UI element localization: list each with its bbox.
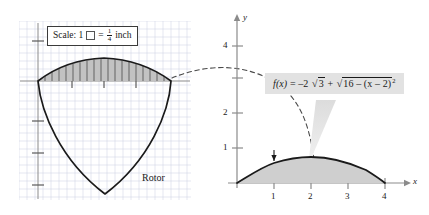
x-tick-label-2: 2 — [308, 191, 313, 201]
x-tick-label-1: 1 — [271, 191, 276, 201]
scale-unit: inch — [115, 30, 131, 41]
fraction-denominator: 4 — [107, 36, 113, 43]
curve-pointer-arrow — [271, 150, 276, 161]
rotor-area-figure: Scale: 1 = 1 4 inch Rotor f(x) = –2 √3 +… — [0, 0, 429, 215]
rotor-shape-label: Rotor — [142, 172, 165, 183]
callout-pointer — [308, 100, 336, 166]
equation-callout: f(x) = –2 √3 + √16 – (x – 2)2 — [265, 73, 404, 94]
radicand-2: 16 – (x – 2) — [342, 77, 392, 89]
equation-equals: = — [290, 78, 296, 89]
y-axis-label: y — [243, 12, 247, 22]
y-axis-arrowhead — [234, 14, 240, 21]
x-tick-label-3: 3 — [345, 191, 350, 201]
y-tick-label-2: 2 — [223, 107, 228, 117]
scale-equals: = — [98, 30, 103, 41]
equation-coefficient: –2 — [298, 78, 308, 89]
equation-lhs: f(x) — [273, 78, 287, 89]
radicand-1: 3 — [318, 77, 325, 89]
sqrt-icon-1: √3 — [311, 77, 325, 89]
y-tick-label-1: 1 — [223, 142, 228, 152]
x-axis-arrowhead — [404, 180, 411, 186]
scale-prefix: Scale: 1 — [53, 30, 83, 41]
equation-plus: + — [327, 78, 333, 89]
square-icon — [86, 31, 95, 40]
x-axis-label: x — [413, 176, 417, 186]
x-tick-label-4: 4 — [382, 191, 387, 201]
y-tick-label-4: 4 — [223, 40, 228, 50]
scale-note: Scale: 1 = 1 4 inch — [47, 26, 138, 46]
quarter-fraction: 1 4 — [107, 28, 113, 43]
radicand-2-exponent: 2 — [392, 77, 395, 84]
sqrt-icon-2: √16 – (x – 2)2 — [336, 77, 396, 89]
